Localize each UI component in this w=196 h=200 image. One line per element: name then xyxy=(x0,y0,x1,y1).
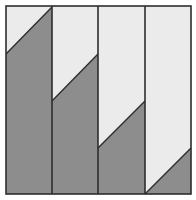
strip-diagram xyxy=(0,0,196,200)
